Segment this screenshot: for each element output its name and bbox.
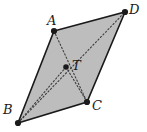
geometry-figure: A D C B T (0, 0, 147, 132)
interior-point-label-t: T (72, 59, 81, 72)
vertex-dot-c (84, 99, 90, 105)
vertex-dot-d (122, 9, 128, 15)
vertex-label-c: C (92, 99, 102, 112)
vertex-dot-b (15, 120, 21, 126)
interior-point-dot-t (63, 64, 69, 70)
vertex-label-d: D (129, 3, 139, 16)
vertex-dot-a (51, 28, 57, 34)
vertex-label-b: B (3, 103, 13, 116)
vertex-label-a: A (47, 14, 56, 27)
